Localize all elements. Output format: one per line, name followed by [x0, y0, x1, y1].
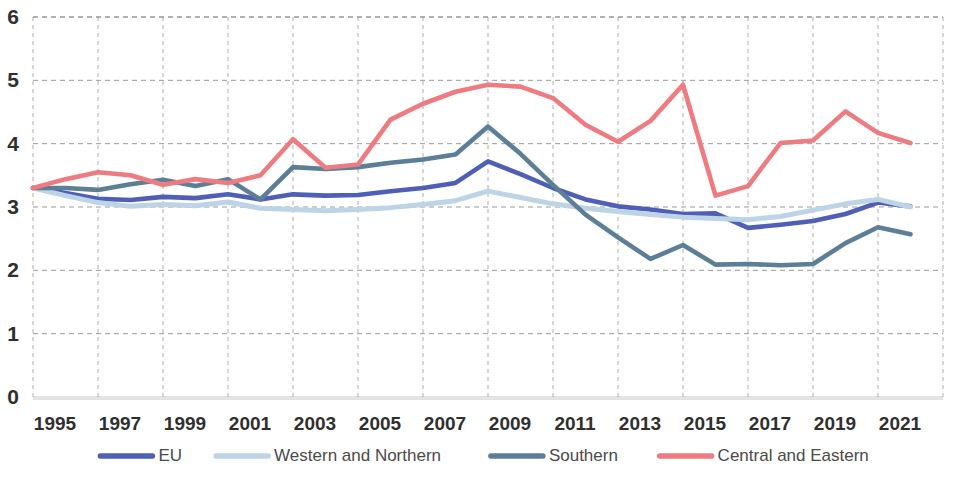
y-tick-0: 0 — [7, 385, 19, 408]
chart-legend: EUWestern and NorthernSouthernCentral an… — [100, 446, 868, 465]
x-tick-2007: 2007 — [424, 413, 466, 434]
legend-item-eu[interactable]: EU — [100, 446, 182, 465]
chart-canvas: 0123456 19951997199920012003200520072009… — [0, 0, 966, 484]
x-tick-2013: 2013 — [619, 413, 661, 434]
legend-label: Southern — [549, 446, 618, 465]
y-tick-2: 2 — [7, 258, 19, 281]
y-tick-3: 3 — [7, 195, 19, 218]
legend-item-central-and-eastern[interactable]: Central and Eastern — [660, 446, 869, 465]
x-tick-2021: 2021 — [879, 413, 922, 434]
line-chart: 0123456 19951997199920012003200520072009… — [0, 0, 966, 484]
y-tick-6: 6 — [7, 5, 19, 28]
x-axis-tick-labels: 1995199719992001200320052007200920112013… — [34, 413, 922, 434]
x-tick-2011: 2011 — [554, 413, 596, 434]
legend-label: Central and Eastern — [718, 446, 869, 465]
x-tick-1999: 1999 — [164, 413, 206, 434]
x-tick-1995: 1995 — [34, 413, 77, 434]
y-axis-tick-labels: 0123456 — [7, 5, 19, 408]
legend-label: EU — [158, 446, 182, 465]
x-tick-2001: 2001 — [229, 413, 272, 434]
y-tick-5: 5 — [7, 68, 19, 91]
x-tick-2019: 2019 — [814, 413, 856, 434]
y-tick-4: 4 — [7, 132, 19, 155]
series-lines — [33, 85, 911, 266]
legend-item-southern[interactable]: Southern — [491, 446, 618, 465]
x-tick-2005: 2005 — [359, 413, 402, 434]
y-tick-1: 1 — [7, 322, 19, 345]
x-tick-2009: 2009 — [489, 413, 531, 434]
x-tick-2015: 2015 — [684, 413, 727, 434]
x-tick-2017: 2017 — [749, 413, 791, 434]
series-line-western-and-northern — [33, 188, 911, 220]
x-tick-2003: 2003 — [294, 413, 336, 434]
legend-label: Western and Northern — [274, 446, 441, 465]
x-tick-1997: 1997 — [99, 413, 141, 434]
legend-item-western-and-northern[interactable]: Western and Northern — [216, 446, 441, 465]
